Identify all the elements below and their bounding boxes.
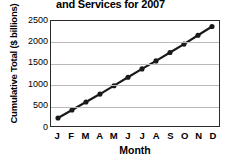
y-tick-label: 500 xyxy=(20,101,48,110)
data-point xyxy=(167,50,172,55)
y-axis-title: Cumulative Total ($ billions) xyxy=(8,0,19,129)
chart-figure: and Services for 2007 Cumulative Total (… xyxy=(0,0,229,161)
y-tick-label: 2500 xyxy=(20,16,48,25)
x-axis-title: Month xyxy=(50,144,220,156)
y-tick-label: 1500 xyxy=(20,58,48,67)
plot-area xyxy=(50,20,220,127)
y-tick-label: 1000 xyxy=(20,80,48,89)
x-tick-label: D xyxy=(205,130,221,141)
data-point xyxy=(209,24,214,29)
data-point xyxy=(125,75,130,80)
data-point xyxy=(83,100,88,105)
data-point xyxy=(195,33,200,38)
data-point xyxy=(55,115,60,120)
gridline xyxy=(51,107,219,108)
data-series-cumulative-total xyxy=(51,21,219,126)
gridline xyxy=(51,85,219,86)
chart-title: and Services for 2007 xyxy=(56,0,224,10)
gridline xyxy=(51,42,219,43)
gridline xyxy=(51,64,219,65)
data-point xyxy=(97,92,102,97)
data-point xyxy=(69,107,74,112)
data-point xyxy=(153,58,158,63)
y-axis-tick-labels: 05001000150020002500 xyxy=(18,0,48,161)
y-tick-label: 0 xyxy=(20,123,48,132)
series-line xyxy=(58,26,212,118)
data-point xyxy=(139,66,144,71)
y-tick-label: 2000 xyxy=(20,37,48,46)
x-axis-tick-labels: JFMAMJJASOND xyxy=(50,130,220,144)
